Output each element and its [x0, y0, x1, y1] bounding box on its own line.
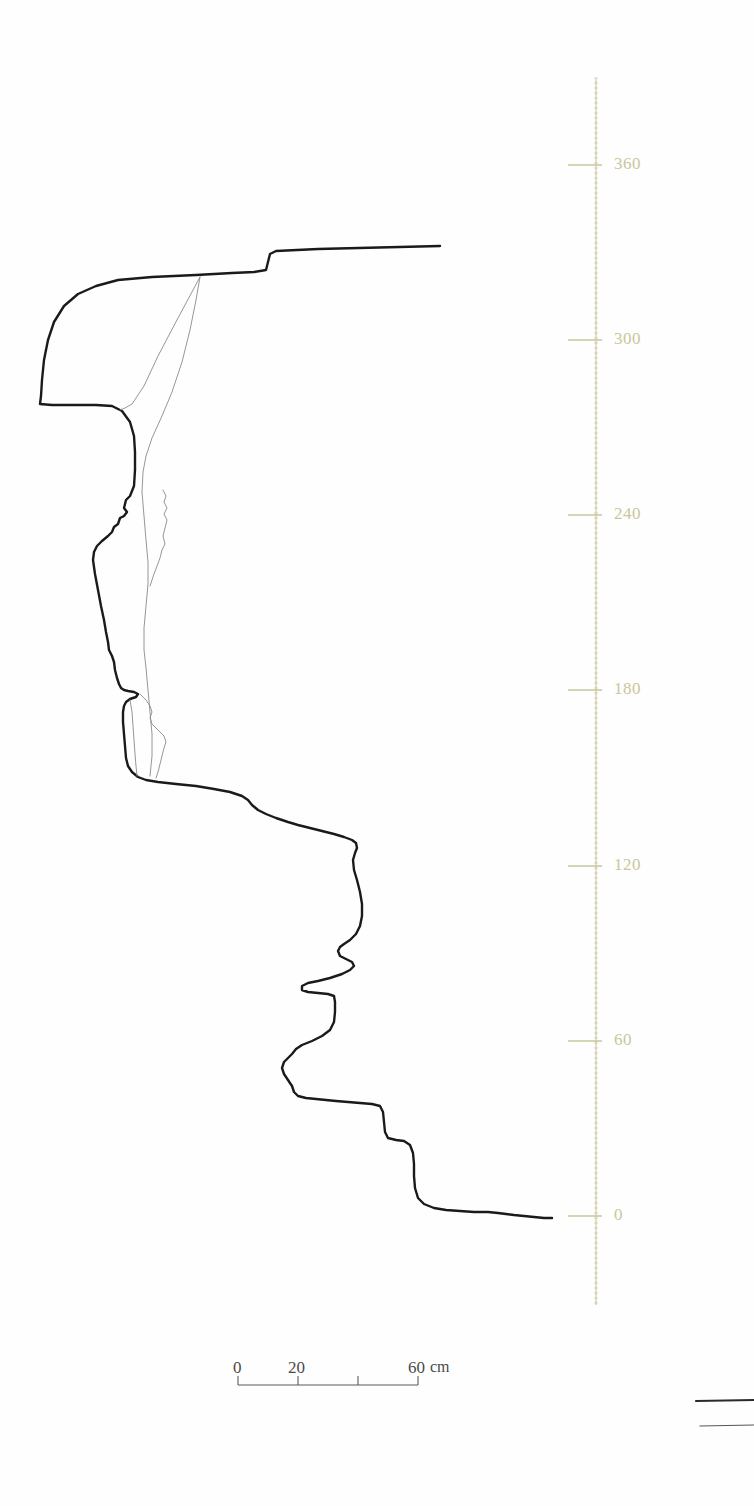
axis-tick-label-60: 60	[614, 1030, 632, 1050]
section-outline-group	[40, 246, 552, 1218]
scale-bar-label-0: 0	[233, 1358, 242, 1378]
axis-tick-label-300: 300	[614, 329, 641, 349]
scale-bar-group	[238, 1376, 418, 1385]
stratigraphic-lines-group	[120, 277, 200, 778]
vertical-axis	[568, 78, 602, 1305]
stratigraphic-inclusion-upper	[150, 490, 167, 586]
scale-bar-label-2: 60	[408, 1358, 425, 1378]
axis-tick-label-0: 0	[614, 1205, 623, 1225]
main-section-outline	[40, 246, 552, 1218]
axis-tick-label-360: 360	[614, 154, 641, 174]
stratigraphic-line-upper	[142, 277, 200, 776]
scale-bar-label-1: 20	[288, 1358, 305, 1378]
stratigraphic-line-diagonal	[120, 277, 200, 410]
axis-tick-label-120: 120	[614, 855, 641, 875]
edge-line-lower	[700, 1425, 754, 1426]
stratigraphic-inclusion-lower	[140, 694, 166, 778]
scale-bar-label-3: cm	[430, 1358, 450, 1376]
section-drawing-svg	[0, 0, 754, 1506]
figure-canvas: 360300240180120600 02060cm	[0, 0, 754, 1506]
corner-edge-marks	[696, 1400, 754, 1426]
edge-line-upper	[696, 1400, 754, 1401]
stratigraphic-inclusion-inner	[130, 700, 137, 776]
axis-tick-label-180: 180	[614, 679, 641, 699]
axis-tick-label-240: 240	[614, 504, 641, 524]
